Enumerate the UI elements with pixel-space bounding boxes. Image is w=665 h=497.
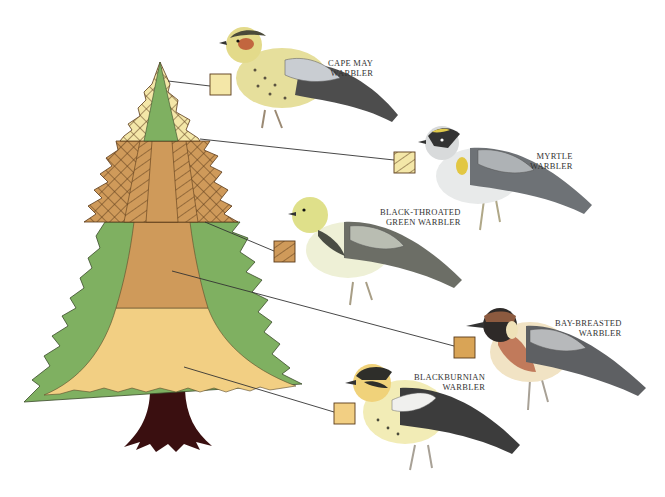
swatch-myrtle bbox=[394, 152, 415, 173]
label-cape-may-line2: WARBLER bbox=[328, 68, 373, 78]
label-myrtle: MYRTLE WARBLER bbox=[530, 151, 573, 171]
label-myrtle-line1: MYRTLE bbox=[530, 151, 573, 161]
label-bay-breasted-line2: WARBLER bbox=[555, 328, 622, 338]
label-bay-breasted-line1: BAY-BREASTED bbox=[555, 318, 622, 328]
label-cape-may: CAPE MAY WARBLER bbox=[328, 58, 373, 78]
label-myrtle-line2: WARBLER bbox=[530, 161, 573, 171]
label-blackburnian-line2: WARBLER bbox=[414, 382, 485, 392]
swatch-bay-breasted bbox=[454, 337, 475, 358]
label-blackburnian-line1: BLACKBURNIAN bbox=[414, 372, 485, 382]
label-black-throated-green-line2: GREEN WARBLER bbox=[380, 217, 461, 227]
leader-line-cape-may bbox=[168, 81, 210, 86]
warbler-zones-diagram: CAPE MAY WARBLER MYRTLE WARBLER BLACK-TH… bbox=[0, 0, 665, 497]
tree-trunk bbox=[124, 390, 212, 452]
label-black-throated-green: BLACK-THROATED GREEN WARBLER bbox=[380, 207, 461, 227]
label-cape-may-line1: CAPE MAY bbox=[328, 58, 373, 68]
label-blackburnian: BLACKBURNIAN WARBLER bbox=[414, 372, 485, 392]
swatch-blackburnian bbox=[334, 403, 355, 424]
label-black-throated-green-line1: BLACK-THROATED bbox=[380, 207, 461, 217]
swatch-black-throated-green bbox=[274, 241, 295, 262]
middle-tier-center bbox=[146, 141, 178, 222]
leader-line-myrtle bbox=[200, 139, 394, 160]
label-bay-breasted: BAY-BREASTED WARBLER bbox=[555, 318, 622, 338]
spruce-tree bbox=[24, 62, 302, 452]
swatch-cape-may bbox=[210, 74, 231, 95]
